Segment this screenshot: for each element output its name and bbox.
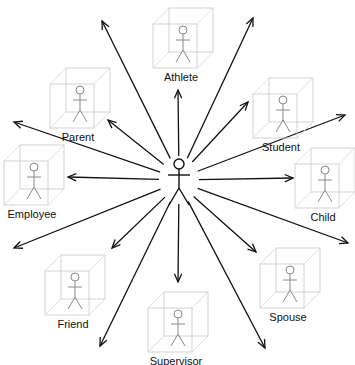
relationship-arrow <box>68 174 159 181</box>
node-label: Child <box>310 211 335 223</box>
role-node-athlete: Athlete <box>153 8 213 83</box>
center-person-icon <box>168 159 190 205</box>
person-icon <box>276 96 290 132</box>
node-label: Spouse <box>269 311 306 323</box>
node-label: Athlete <box>164 71 198 83</box>
node-label: Parent <box>62 131 94 143</box>
relationship-arrow <box>112 197 165 248</box>
node-label: Employee <box>8 208 57 220</box>
relationship-arrow <box>102 21 170 158</box>
relationship-arrow <box>100 202 170 346</box>
person-icon <box>68 273 82 309</box>
node-label: Friend <box>57 318 88 330</box>
role-node-spouse: Spouse <box>260 248 320 323</box>
relationship-arrow <box>174 90 181 156</box>
person-icon <box>73 86 87 122</box>
node-label: Student <box>262 141 300 153</box>
role-node-student: Student <box>253 78 313 153</box>
relationship-arrow <box>108 120 164 165</box>
person-icon <box>176 26 190 62</box>
role-node-child: Child <box>295 148 355 223</box>
role-node-friend: Friend <box>45 255 105 330</box>
relationship-arrow <box>199 174 293 181</box>
relationship-arrow <box>14 121 160 172</box>
relationship-diagram: AthleteParentStudentEmployeeChildFriendS… <box>0 0 355 365</box>
person-icon <box>318 166 332 202</box>
relationship-arrow <box>188 201 265 348</box>
relationship-arrow <box>174 204 181 282</box>
role-node-employee: Employee <box>4 145 64 220</box>
person-icon <box>27 163 41 199</box>
role-node-parent: Parent <box>50 68 110 143</box>
relationship-arrow <box>194 196 256 252</box>
node-label: Supervisor <box>150 355 203 365</box>
relationship-arrow <box>192 102 248 162</box>
person-icon <box>283 266 297 302</box>
role-node-supervisor: Supervisor <box>148 292 208 365</box>
person-icon <box>171 310 185 346</box>
